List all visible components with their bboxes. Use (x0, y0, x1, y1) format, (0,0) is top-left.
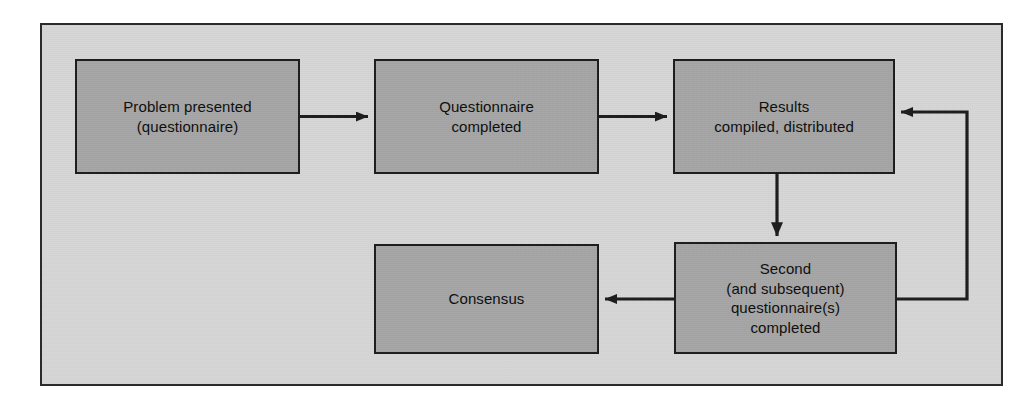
node-questionnaire-completed: Questionnaire completed (374, 59, 599, 174)
node-questionnaire-completed-label: Questionnaire completed (433, 97, 540, 136)
figure-root: Problem presented (questionnaire) Questi… (0, 0, 1035, 405)
node-results-compiled-distributed-label: Results compiled, distributed (708, 97, 860, 136)
node-second-subsequent-questionnaires: Second (and subsequent) questionnaire(s)… (674, 242, 897, 354)
diagram-panel: Problem presented (questionnaire) Questi… (40, 23, 1003, 386)
node-problem-presented: Problem presented (questionnaire) (75, 59, 300, 174)
node-problem-presented-label: Problem presented (questionnaire) (117, 97, 257, 136)
node-second-subsequent-questionnaires-label: Second (and subsequent) questionnaire(s)… (720, 259, 850, 337)
node-consensus: Consensus (374, 244, 599, 354)
node-consensus-label: Consensus (443, 289, 531, 309)
edge-second-to-results-feedback (897, 112, 967, 299)
node-results-compiled-distributed: Results compiled, distributed (673, 59, 895, 174)
